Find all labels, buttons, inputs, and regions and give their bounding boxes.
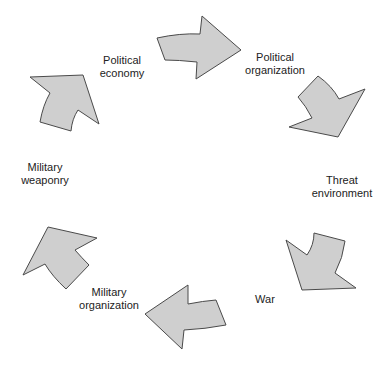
node-war: War — [255, 293, 275, 306]
node-label-line: War — [255, 293, 275, 306]
node-military-weaponry: Military weaponry — [21, 161, 69, 187]
arrow-left-icon — [145, 285, 226, 349]
arrow-down-left-icon — [286, 233, 356, 290]
node-label-line: environment — [312, 187, 373, 200]
node-label-line: Political — [245, 51, 305, 64]
arrow-right-icon — [157, 16, 241, 79]
node-label-line: Threat — [312, 174, 373, 187]
node-label-line: organization — [79, 299, 139, 312]
arrow-up-right-icon — [30, 75, 99, 131]
node-political-economy: Political economy — [100, 54, 145, 80]
arrow-down-right-icon — [289, 76, 365, 137]
node-military-organization: Military organization — [79, 286, 139, 312]
node-label-line: weaponry — [21, 174, 69, 187]
node-label-line: Military — [21, 161, 69, 174]
node-label-line: organization — [245, 64, 305, 77]
node-political-organization: Political organization — [245, 51, 305, 77]
node-label-line: economy — [100, 67, 145, 80]
node-threat-environment: Threat environment — [312, 174, 373, 200]
arrow-up-left-icon — [23, 227, 97, 289]
node-label-line: Military — [79, 286, 139, 299]
node-label-line: Political — [100, 54, 145, 67]
